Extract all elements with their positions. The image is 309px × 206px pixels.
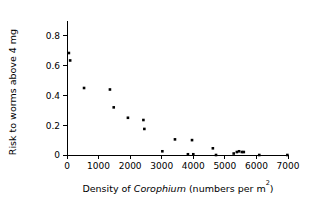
- data-point: [112, 106, 115, 109]
- data-point: [69, 59, 72, 62]
- y-tick-label: 0.2: [46, 121, 60, 131]
- chart-canvas: 00.20.40.60.8 01000200030004000500060007…: [0, 0, 309, 206]
- y-tick-label: 0.8: [46, 31, 61, 41]
- x-tick-label: 2000: [119, 161, 142, 171]
- data-point: [238, 150, 241, 153]
- scatter-plot-figure: 00.20.40.60.8 01000200030004000500060007…: [0, 0, 309, 206]
- data-point: [191, 139, 194, 142]
- y-tick-label: 0.4: [46, 91, 61, 101]
- x-tick-label: 4000: [182, 161, 205, 171]
- data-point: [215, 154, 218, 157]
- data-point: [212, 147, 215, 150]
- y-axis: 00.20.40.60.8: [46, 21, 67, 160]
- data-point: [127, 116, 130, 119]
- x-axis-title: Density of Corophium (numbers per m2): [82, 179, 273, 194]
- y-tick-label: 0: [54, 150, 60, 160]
- species-name: Corophium: [134, 183, 186, 194]
- y-axis-title: Risk to worms above 4 mg: [7, 29, 18, 155]
- data-point: [174, 138, 177, 141]
- data-point: [83, 87, 86, 90]
- x-tick-label: 3000: [150, 161, 173, 171]
- data-point: [142, 119, 145, 122]
- x-tick-label: 7000: [277, 161, 300, 171]
- data-point: [161, 150, 164, 153]
- y-tick-label: 0.6: [46, 61, 61, 71]
- data-point: [192, 153, 195, 156]
- x-tick-label: 0: [64, 161, 70, 171]
- data-point: [232, 152, 235, 155]
- x-tick-label: 1000: [87, 161, 110, 171]
- data-points-layer: [68, 52, 289, 157]
- x-tick-label: 6000: [245, 161, 268, 171]
- data-point: [143, 128, 146, 131]
- data-point: [243, 151, 246, 154]
- x-axis: 01000200030004000500060007000: [64, 155, 300, 171]
- data-point: [68, 52, 71, 55]
- data-point: [258, 154, 261, 157]
- data-point: [109, 88, 112, 91]
- data-point: [286, 154, 289, 157]
- data-point: [187, 153, 190, 156]
- x-tick-label: 5000: [213, 161, 236, 171]
